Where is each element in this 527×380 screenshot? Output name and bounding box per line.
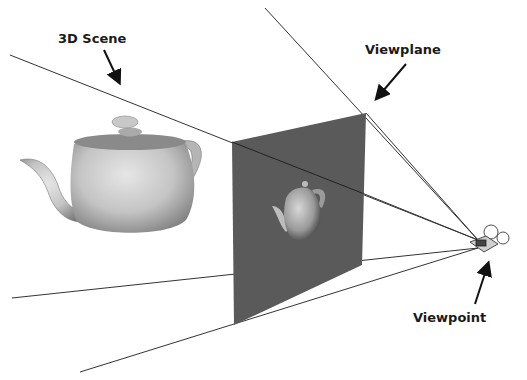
scene-label: 3D Scene <box>58 31 126 46</box>
viewplane-arrow <box>377 64 406 98</box>
scene-arrow <box>104 50 119 82</box>
viewpoint-arrow <box>475 264 488 304</box>
viewpoint-label: Viewpoint <box>413 310 486 325</box>
viewplane-label: Viewplane <box>365 42 441 57</box>
teapot-3d-scene <box>20 116 201 233</box>
